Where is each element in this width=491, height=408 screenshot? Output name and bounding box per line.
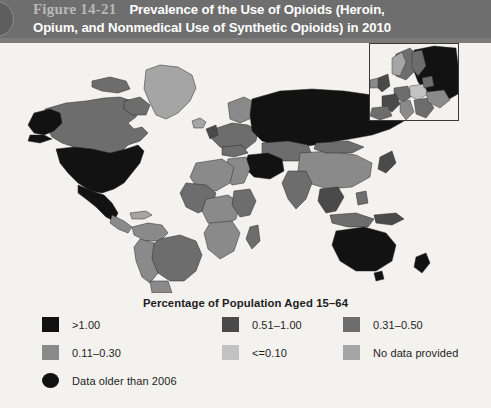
legend-swatch-6	[42, 373, 59, 388]
legend-item-4[interactable]: <=0.10	[222, 345, 287, 360]
legend-swatch-2	[343, 317, 360, 332]
figure-container: Figure 14-21Prevalence of the Use of Opi…	[0, 0, 491, 408]
legend-swatch-3	[42, 345, 59, 360]
legend-item-0[interactable]: >1.00	[42, 317, 100, 332]
legend-swatch-0	[42, 317, 59, 332]
legend-label-0: >1.00	[72, 319, 100, 331]
europe-inset-svg	[370, 44, 458, 120]
figure-title-line-1: Prevalence of the Use of Opioids (Heroin…	[129, 2, 384, 17]
inset-region-ireland	[370, 78, 378, 88]
legend-item-3[interactable]: 0.11–0.30	[42, 345, 121, 360]
legend-label-4: <=0.10	[252, 347, 287, 359]
legend-swatch-4	[222, 345, 239, 360]
region-tasmania	[374, 271, 384, 281]
legend-title: Percentage of Population Aged 15–64	[0, 297, 491, 309]
legend-item-1[interactable]: 0.51–1.00	[222, 317, 302, 332]
legend-label-5: No data provided	[373, 347, 458, 359]
legend-swatch-1	[222, 317, 239, 332]
legend-item-5[interactable]: No data provided	[343, 345, 458, 360]
legend-swatch-5	[343, 345, 360, 360]
europe-inset	[369, 43, 459, 121]
legend-label-3: 0.11–0.30	[72, 347, 121, 359]
figure-title-line-2: Opium, and Nonmedical Use of Synthetic O…	[33, 20, 391, 35]
region-philippines	[356, 191, 368, 205]
legend-label-2: 0.31–0.50	[373, 319, 423, 331]
map-legend: Percentage of Population Aged 15–64 >1.0…	[0, 293, 491, 408]
inset-region-baltic	[422, 76, 434, 88]
figure-number: Figure 14-21	[33, 1, 116, 17]
figure-header-text: Figure 14-21Prevalence of the Use of Opi…	[33, 1, 483, 36]
legend-item-6[interactable]: Data older than 2006	[42, 373, 177, 388]
region-argentina-chile	[150, 281, 172, 293]
legend-label-1: 0.51–1.00	[252, 319, 302, 331]
legend-item-2[interactable]: 0.31–0.50	[343, 317, 423, 332]
legend-label-6: Data older than 2006	[72, 375, 177, 387]
